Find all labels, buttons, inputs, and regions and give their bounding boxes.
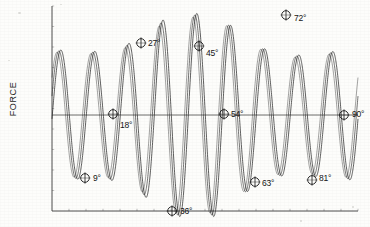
scan-speck <box>352 206 354 208</box>
scan-speck <box>18 12 21 14</box>
angle-marker-label: 54° <box>231 109 243 119</box>
angle-marker-label: 9° <box>93 173 101 183</box>
angle-marker <box>79 172 90 183</box>
scan-speck <box>8 60 10 61</box>
angle-marker <box>193 40 204 51</box>
angle-marker-label: 63° <box>262 178 274 188</box>
angle-marker <box>306 174 317 185</box>
angle-marker-label: 36° <box>180 206 192 216</box>
angle-marker-label: 18° <box>120 120 132 130</box>
angle-marker-label: 90° <box>352 109 364 119</box>
angle-marker-label: 45° <box>206 48 218 58</box>
y-axis-label: FORCE <box>8 68 18 130</box>
scan-speck <box>60 4 62 5</box>
angle-marker <box>135 37 146 48</box>
scan-speck <box>300 220 302 222</box>
angle-marker <box>280 9 291 20</box>
angle-marker-label: 81° <box>319 173 331 183</box>
angle-marker <box>338 109 349 120</box>
force-angle-chart: FORCE 9°18°27°36°45°54°63°72°81°90° <box>0 0 370 227</box>
angle-marker-label: 27° <box>148 38 160 48</box>
angle-markers <box>79 9 349 216</box>
plot-svg <box>0 0 370 227</box>
angle-marker-label: 72° <box>294 13 306 23</box>
